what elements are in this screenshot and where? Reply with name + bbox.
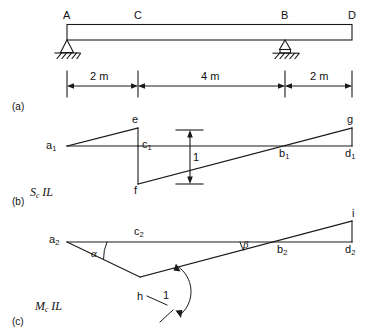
moment-il-caption: Mc IL xyxy=(35,300,62,313)
point-label-b2: b2 xyxy=(277,244,287,256)
unit-rotation-label: 1 xyxy=(163,290,169,301)
shear-segment-fg xyxy=(138,128,352,184)
point-label-i: i xyxy=(352,208,354,219)
panel-tag-c: (c) xyxy=(12,316,24,327)
beam-node-label-B: B xyxy=(281,10,288,21)
dimension-label-ac: 2 m xyxy=(90,71,108,82)
shear-il-caption: Sc IL xyxy=(30,186,53,199)
shear-segment-ae xyxy=(67,128,138,146)
beam-diagram xyxy=(55,25,352,98)
point-label-f: f xyxy=(134,185,137,196)
point-label-e: e xyxy=(132,114,138,125)
support-pin-A xyxy=(55,40,81,59)
angle-label-beta: β xyxy=(243,239,248,250)
point-label-c1: c1 xyxy=(142,139,152,151)
beam-node-label-D: D xyxy=(348,10,356,21)
point-label-a1: a1 xyxy=(46,140,56,152)
unit-rotation-marker xyxy=(147,264,191,323)
beam-node-label-A: A xyxy=(63,10,70,21)
point-label-b1: b1 xyxy=(279,148,289,160)
point-label-d2: d2 xyxy=(345,244,355,256)
angle-label-alpha: α xyxy=(91,248,97,259)
beam-body xyxy=(67,25,352,41)
beam-node-label-C: C xyxy=(134,10,142,21)
angle-arc-alpha xyxy=(103,242,107,260)
point-label-a2: a2 xyxy=(49,234,59,246)
panel-tag-a: (a) xyxy=(12,101,24,112)
influence-line-figure xyxy=(0,0,373,333)
point-label-h: h xyxy=(137,291,143,302)
panel-tag-b: (b) xyxy=(12,196,24,207)
point-label-d1: d1 xyxy=(345,148,355,160)
point-label-c2: c2 xyxy=(134,226,144,238)
support-pin-B xyxy=(273,40,299,59)
dimension-label-cb: 4 m xyxy=(201,71,219,82)
moment-influence-line xyxy=(67,221,352,322)
shear-unit-ordinate-label: 1 xyxy=(193,152,199,163)
point-label-g: g xyxy=(347,114,353,125)
shear-influence-line xyxy=(67,128,352,184)
dimension-label-bd: 2 m xyxy=(310,71,328,82)
